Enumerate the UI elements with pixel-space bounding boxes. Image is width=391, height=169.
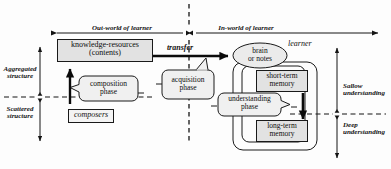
axis-label-in-world: In-world of learner	[205, 25, 287, 32]
right-understanding-axis	[335, 48, 340, 158]
composers-label: composers	[68, 111, 114, 119]
left-structure-axis	[38, 47, 43, 141]
axis-label-sallow-understanding: Sallow understanding	[343, 83, 391, 98]
diagram-canvas: Out-world of learner In-world of learner…	[0, 0, 391, 169]
brain-or-notes-label: brain or notes	[234, 47, 286, 63]
long-term-memory-label: long-term memory	[256, 122, 308, 138]
acquisition-phase-label: acquisition phase	[162, 76, 214, 92]
axis-label-out-world: Out-world of learner	[80, 25, 164, 32]
axis-label-scattered-structure: Scattered structure	[0, 106, 40, 121]
transfer-label: transfer	[157, 44, 203, 52]
axis-label-aggregated-structure: Aggregated structure	[0, 66, 40, 81]
composition-phase-label: composition phase	[79, 80, 138, 96]
axis-label-deep-understanding: Deep understanding	[343, 122, 391, 137]
understanding-phase-label: understanding phase	[218, 95, 281, 111]
learner-label: learner	[288, 40, 328, 48]
knowledge-resources-label: knowledge-resources (contents)	[57, 41, 153, 58]
short-term-memory-label: short-term memory	[256, 72, 308, 88]
